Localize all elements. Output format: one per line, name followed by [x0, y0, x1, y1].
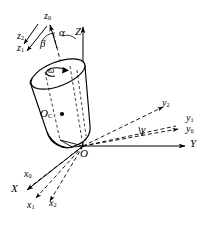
- label-y0: y0: [186, 124, 194, 134]
- label-y2: y2: [162, 98, 170, 108]
- label-beta: β: [40, 38, 45, 49]
- axis-y0: [83, 129, 178, 146]
- label-x1: x1: [27, 200, 35, 210]
- cylinder-body: [27, 53, 90, 148]
- label-x2: x2: [49, 198, 57, 208]
- label-Z: Z: [75, 26, 81, 37]
- label-gamma: γ: [141, 124, 145, 135]
- label-alpha: α: [59, 27, 65, 38]
- label-z1: z1: [17, 43, 24, 53]
- figure-canvas: z0 z2 z1 α β Z y2 y1 y0 γ Y x0 X x1 x2 ω…: [0, 0, 209, 226]
- label-z2: z2: [17, 31, 24, 41]
- label-body-center: OC: [40, 108, 53, 120]
- label-Y: Y: [190, 138, 196, 149]
- label-origin: O: [80, 148, 88, 159]
- label-omega: ω: [48, 66, 54, 75]
- axis-z0-arrow: [50, 25, 57, 48]
- axis-y1: [83, 126, 176, 146]
- label-z0: z0: [44, 11, 51, 21]
- axis-z2: [24, 24, 38, 44]
- body-center-dot: [60, 112, 64, 116]
- label-y1: y1: [186, 113, 194, 123]
- axis-y2: [83, 107, 163, 146]
- axis-x1: [36, 146, 83, 198]
- label-x0: x0: [24, 169, 32, 179]
- coordinate-frame-diagram: [0, 0, 209, 226]
- axis-x2: [50, 146, 83, 201]
- label-X: X: [11, 183, 18, 194]
